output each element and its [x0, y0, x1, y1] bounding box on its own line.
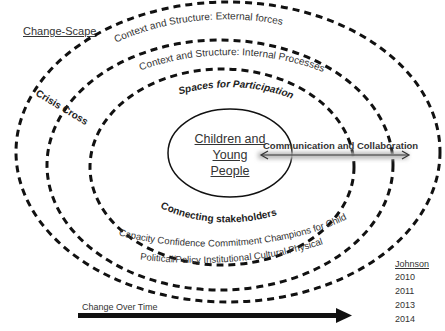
legend-year: 2013 [395, 300, 415, 310]
timeline-bar [78, 313, 338, 318]
outer-ring-label: Context and Structure: External forces [112, 10, 284, 44]
crisis-label: Crisis Cross-Cutting [0, 0, 91, 127]
communication-label: Communication and Collaboration [263, 140, 418, 151]
center-label: Children and Young People [175, 131, 285, 179]
legend-year: 2011 [395, 286, 414, 296]
center-label-line-3: People [175, 163, 285, 179]
legend-year: 2014 [395, 314, 415, 324]
legend-heading: Johnson [395, 259, 429, 269]
connecting-label: Connecting stakeholders [159, 200, 278, 225]
timeline-label: Change Over Time [82, 302, 158, 312]
diagram-title: Change-Scape [23, 25, 96, 37]
timeline-arrowhead-icon [336, 308, 352, 323]
spaces-label: Spaces for Participation [177, 78, 295, 101]
legend-year: 2010 [395, 272, 415, 282]
